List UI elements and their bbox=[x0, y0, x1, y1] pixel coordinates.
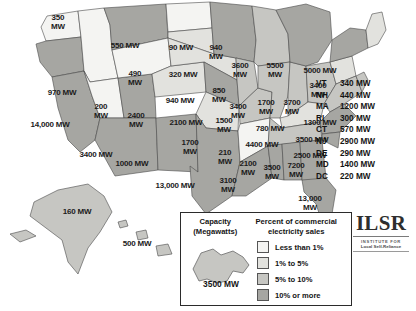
small-state-abbr: VT bbox=[316, 78, 340, 90]
legend-percent-title-line: electricity sales bbox=[246, 227, 348, 237]
legend-bin-label: Less than 1% bbox=[275, 243, 324, 252]
legend-color-swatch bbox=[257, 273, 269, 285]
small-state-row: MA1200 MW bbox=[316, 101, 375, 113]
small-state-abbr: RI bbox=[316, 113, 340, 125]
state-shape-ut bbox=[118, 74, 156, 118]
small-state-value: 1200 MW bbox=[340, 101, 375, 113]
small-state-value: 440 MW bbox=[340, 90, 370, 102]
state-shape-ny bbox=[330, 28, 368, 62]
small-state-value: 570 MW bbox=[340, 124, 370, 136]
logo-divider bbox=[353, 236, 409, 237]
small-state-row: DE290 MW bbox=[316, 148, 375, 160]
small-state-abbr: DC bbox=[316, 171, 340, 183]
legend-capacity-title-line: Capacity bbox=[185, 217, 246, 227]
small-state-value: 2900 MW bbox=[340, 136, 375, 148]
small-state-abbr: DE bbox=[316, 148, 340, 160]
small-state-value: 300 MW bbox=[340, 113, 370, 125]
state-shape-al bbox=[282, 142, 302, 180]
legend-bin-row: 10% or more bbox=[257, 287, 324, 303]
legend-capacity-title-line: (Megawatts) bbox=[185, 227, 246, 237]
legend-bin-row: 5% to 10% bbox=[257, 271, 324, 287]
ilsr-logo: ILSR INSTITUTE FOR Local Self-Reliance bbox=[352, 212, 410, 252]
small-state-abbr: NJ bbox=[316, 136, 340, 148]
small-state-row: NJ2900 MW bbox=[316, 136, 375, 148]
small-state-row: DC220 MW bbox=[316, 171, 375, 183]
small-state-row: CT570 MW bbox=[316, 124, 375, 136]
ilsr-wordmark: ILSR bbox=[352, 212, 410, 234]
small-state-row: NH440 MW bbox=[316, 90, 375, 102]
state-shape-ak-islands bbox=[10, 230, 36, 242]
legend-swatch-list: Less than 1%1% to 5%5% to 10%10% or more bbox=[257, 239, 324, 303]
legend-ny-shape bbox=[193, 249, 249, 283]
ilsr-subtitle-2: Local Self-Reliance bbox=[352, 244, 410, 249]
legend-percent-title-line: Percent of commercial bbox=[246, 217, 348, 227]
map-legend: Capacity(Megawatts) Percent of commercia… bbox=[180, 212, 352, 306]
state-shape-az bbox=[95, 118, 158, 176]
legend-sample-state: 3500 MW bbox=[187, 239, 255, 301]
legend-bin-label: 1% to 5% bbox=[275, 259, 308, 268]
state-shape-nm bbox=[156, 114, 198, 172]
legend-headings: Capacity(Megawatts) Percent of commercia… bbox=[181, 213, 351, 236]
legend-color-swatch bbox=[257, 241, 269, 253]
small-state-abbr: MD bbox=[316, 159, 340, 171]
legend-bin-row: 1% to 5% bbox=[257, 255, 324, 271]
small-state-abbr: CT bbox=[316, 124, 340, 136]
legend-bin-label: 5% to 10% bbox=[275, 275, 313, 284]
small-state-value: 340 MW bbox=[340, 78, 370, 90]
small-state-value: 1400 MW bbox=[340, 159, 375, 171]
state-shape-or bbox=[36, 37, 84, 77]
small-state-row: RI300 MW bbox=[316, 113, 375, 125]
legend-capacity-title: Capacity(Megawatts) bbox=[185, 217, 246, 236]
small-state-row: MD1400 MW bbox=[316, 159, 375, 171]
legend-sample-value: 3500 MW bbox=[187, 279, 255, 289]
small-state-row: VT340 MW bbox=[316, 78, 375, 90]
small-state-value: 290 MW bbox=[340, 148, 370, 160]
small-state-value: 220 MW bbox=[340, 171, 370, 183]
state-shape-hi bbox=[118, 220, 128, 228]
state-shape-hi2 bbox=[136, 230, 148, 240]
small-state-abbr: MA bbox=[316, 101, 340, 113]
legend-bin-row: Less than 1% bbox=[257, 239, 324, 255]
small-states-list: VT340 MWNH440 MWMA1200 MWRI300 MWCT570 M… bbox=[316, 78, 375, 182]
state-shape-mn bbox=[210, 2, 256, 62]
state-shape-ak bbox=[30, 184, 112, 274]
legend-percent-title: Percent of commercialelectricity sales bbox=[246, 217, 348, 236]
state-shape-newengland bbox=[366, 12, 386, 48]
small-state-abbr: NH bbox=[316, 90, 340, 102]
legend-color-swatch bbox=[257, 289, 269, 301]
state-shape-hi3 bbox=[156, 244, 172, 256]
logo-divider-2 bbox=[353, 251, 409, 252]
legend-color-swatch bbox=[257, 257, 269, 269]
state-shape-wa bbox=[41, 11, 81, 41]
state-shape-nd bbox=[166, 2, 212, 32]
us-capacity-map: 350 MW970 MW14,000 MW490 MW550 MW200 MW2… bbox=[0, 0, 416, 311]
legend-bin-label: 10% or more bbox=[275, 291, 321, 300]
